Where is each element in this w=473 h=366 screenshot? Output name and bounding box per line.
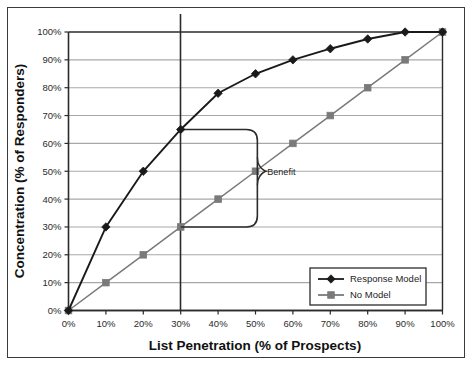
x-tick-label-40pct: 40% <box>209 318 229 329</box>
x-tick-label-70pct: 70% <box>321 318 341 329</box>
data-point-60pct <box>290 140 297 147</box>
y-tick-label-50pct: 50% <box>42 166 62 177</box>
y-tick-label-30pct: 30% <box>42 221 62 232</box>
data-point-40pct <box>215 196 222 203</box>
data-point-10pct <box>103 279 110 286</box>
legend[interactable]: Response ModelNo Model <box>310 268 426 305</box>
y-tick-label-20pct: 20% <box>42 249 62 260</box>
x-axis-title: List Penetration (% of Prospects) <box>149 338 361 353</box>
x-axis-ticks: 0%10%20%30%40%50%60%70%80%90%100% <box>62 311 456 329</box>
y-axis-ticks: 100%90%80%70%60%50%40%30%20%10%0% <box>37 26 68 316</box>
y-tick-label-80pct: 80% <box>42 82 62 93</box>
benefit-annotation-label: Benefit <box>267 167 296 177</box>
y-tick-label-0pct: 0% <box>48 305 62 316</box>
x-tick-label-60pct: 60% <box>283 318 303 329</box>
y-tick-label-100pct: 100% <box>37 26 62 37</box>
data-point-70pct <box>327 112 334 119</box>
y-tick-label-40pct: 40% <box>42 194 62 205</box>
data-point-80pct <box>364 84 371 91</box>
data-point-90pct <box>402 57 409 64</box>
x-tick-label-0pct: 0% <box>62 318 76 329</box>
x-tick-label-100pct: 100% <box>430 318 455 329</box>
y-tick-label-90pct: 90% <box>42 54 62 65</box>
chart-figure: 100%90%80%70%60%50%40%30%20%10%0% 0%10%2… <box>0 0 473 366</box>
legend-label-no-model: No Model <box>350 289 391 300</box>
x-tick-label-50pct: 50% <box>246 318 266 329</box>
y-tick-label-60pct: 60% <box>42 138 62 149</box>
data-point-20pct <box>140 252 147 259</box>
x-tick-label-80pct: 80% <box>358 318 378 329</box>
x-tick-label-30pct: 30% <box>171 318 191 329</box>
gains-chart: 100%90%80%70%60%50%40%30%20%10%0% 0%10%2… <box>0 0 473 366</box>
legend-label-response-model: Response Model <box>350 273 421 284</box>
x-tick-label-10pct: 10% <box>96 318 116 329</box>
x-tick-label-20pct: 20% <box>134 318 154 329</box>
legend-marker-square-icon <box>328 292 335 299</box>
y-tick-label-70pct: 70% <box>42 110 62 121</box>
y-tick-label-10pct: 10% <box>42 277 62 288</box>
x-tick-label-90pct: 90% <box>396 318 416 329</box>
y-axis-title: Concentration (% of Responders) <box>12 64 27 279</box>
